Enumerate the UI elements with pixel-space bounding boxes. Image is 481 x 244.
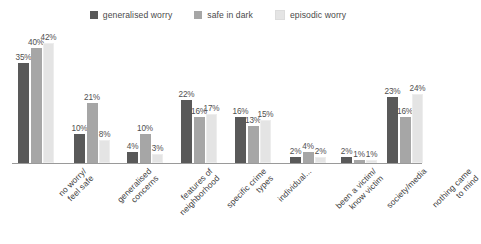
bar-value-label: 2% xyxy=(290,147,302,156)
bar-value-label: 4% xyxy=(127,142,139,151)
bar-group: 22%16%17% xyxy=(181,34,217,163)
bar[interactable] xyxy=(303,152,314,163)
bar-value-label: 1% xyxy=(366,150,378,159)
legend-item-label: generalised worry xyxy=(103,10,173,20)
legend-item[interactable]: safe in dark xyxy=(194,10,253,20)
x-axis-label: been a victim/ know victim xyxy=(334,166,386,218)
bar-value-label: 4% xyxy=(302,142,314,151)
x-axis-label: no worry/ feel safe xyxy=(56,166,95,205)
bar[interactable] xyxy=(152,154,163,163)
bar-group: 16%13%15% xyxy=(235,34,271,163)
bar[interactable] xyxy=(260,120,271,163)
legend-swatch-icon xyxy=(275,10,285,20)
bar-value-label: 22% xyxy=(178,90,194,99)
bar-group: 10%21%8% xyxy=(74,34,110,163)
legend-item[interactable]: episodic worry xyxy=(275,10,346,20)
legend-swatch-icon xyxy=(90,11,98,19)
bar[interactable] xyxy=(87,103,98,163)
bar[interactable] xyxy=(43,43,54,163)
bar-value-label: 16% xyxy=(397,107,413,116)
bar-value-label: 10% xyxy=(71,124,87,133)
bar[interactable] xyxy=(140,134,151,163)
bar[interactable] xyxy=(99,140,110,163)
bar-value-label: 15% xyxy=(257,110,273,119)
bar-value-label: 42% xyxy=(40,33,56,42)
bar[interactable] xyxy=(412,94,423,163)
bar[interactable] xyxy=(18,63,29,163)
bar-group: 2%1%1% xyxy=(341,34,377,163)
bar-value-label: 10% xyxy=(137,124,153,133)
x-axis-label: nothing came to mind xyxy=(430,166,481,217)
bar-value-label: 23% xyxy=(384,87,400,96)
bar-value-label: 17% xyxy=(203,104,219,113)
bar[interactable] xyxy=(31,48,42,163)
bar-group: 23%16%24% xyxy=(387,34,423,163)
plot-area: 35%40%42%10%21%8%4%10%3%22%16%17%16%13%1… xyxy=(14,34,428,163)
bar-group: 2%4%2% xyxy=(290,34,326,163)
bar-group: 4%10%3% xyxy=(127,34,163,163)
x-axis-label: generalised concerns xyxy=(115,166,161,212)
legend-item-label: episodic worry xyxy=(290,10,346,20)
x-axis-label: society/media xyxy=(384,166,428,210)
chart-legend: generalised worrysafe in darkepisodic wo… xyxy=(0,10,436,20)
legend-item-label: safe in dark xyxy=(207,10,253,20)
bar-value-label: 3% xyxy=(152,144,164,153)
bar[interactable] xyxy=(194,117,205,163)
x-axis-label: specific crime types xyxy=(224,166,275,217)
legend-swatch-icon xyxy=(194,11,202,19)
bar[interactable] xyxy=(400,117,411,163)
bar[interactable] xyxy=(127,152,138,163)
bar[interactable] xyxy=(74,134,85,163)
bar-value-label: 24% xyxy=(409,84,425,93)
x-axis-category-labels: no worry/ feel safegeneralised concernsf… xyxy=(0,166,436,244)
bar-value-label: 35% xyxy=(15,53,31,62)
x-axis-label: features of neighborhood xyxy=(170,166,221,217)
bar-value-label: 2% xyxy=(341,147,353,156)
bar-group: 35%40%42% xyxy=(18,34,54,163)
bar-value-label: 8% xyxy=(99,130,111,139)
bar-value-label: 2% xyxy=(315,147,327,156)
legend-item[interactable]: generalised worry xyxy=(90,10,173,20)
x-axis-line xyxy=(12,163,422,164)
bar[interactable] xyxy=(206,114,217,163)
bar-value-label: 1% xyxy=(353,150,365,159)
bar[interactable] xyxy=(248,126,259,163)
x-axis-label: individual... xyxy=(276,166,314,204)
bar-value-label: 21% xyxy=(84,93,100,102)
